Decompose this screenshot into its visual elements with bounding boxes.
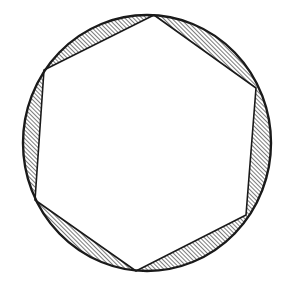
inscribed-hexagon-diagram <box>0 0 284 297</box>
hatched-segments <box>23 15 271 271</box>
